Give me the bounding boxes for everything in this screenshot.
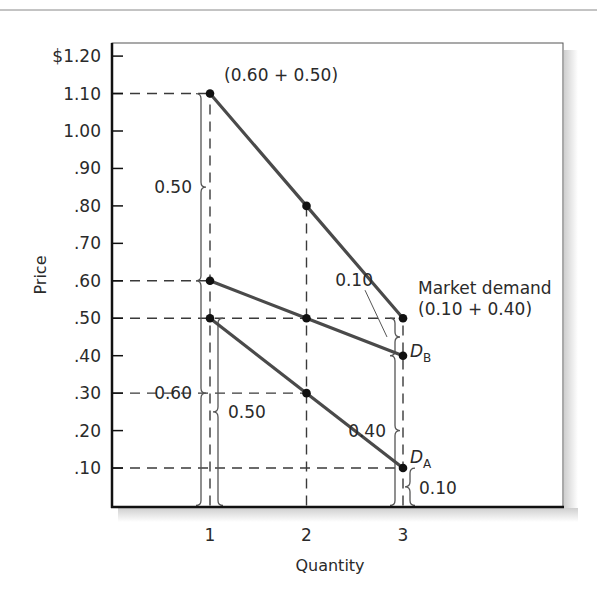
data-point bbox=[302, 202, 311, 211]
y-axis-title: Price bbox=[31, 255, 50, 294]
brace-label: 0.10 bbox=[419, 478, 457, 498]
data-point bbox=[399, 314, 408, 323]
y-tick-label: .70 bbox=[74, 233, 101, 253]
x-tick-label: 1 bbox=[205, 525, 216, 545]
y-tick-label: .10 bbox=[74, 458, 101, 478]
brace-label: 0.50 bbox=[154, 177, 192, 197]
market-demand-label: Market demand bbox=[418, 278, 552, 298]
y-tick-label: .90 bbox=[74, 158, 101, 178]
data-point bbox=[302, 389, 311, 398]
y-tick-label: .30 bbox=[74, 383, 101, 403]
x-tick-label: 3 bbox=[398, 525, 409, 545]
x-axis-ticks: 123 bbox=[205, 525, 409, 545]
y-tick-label: 1.00 bbox=[63, 121, 101, 141]
data-point bbox=[302, 314, 311, 323]
y-tick-label: .80 bbox=[74, 196, 101, 216]
x-axis-title: Quantity bbox=[295, 556, 364, 575]
data-point bbox=[399, 351, 408, 360]
brace-label: 0.40 bbox=[348, 421, 386, 441]
brace-label: 0.10 bbox=[335, 270, 373, 290]
brace-label: 0.60 bbox=[154, 383, 192, 403]
brace-label: 0.50 bbox=[228, 402, 266, 422]
frame-shadow-bottom bbox=[118, 508, 578, 522]
data-point bbox=[399, 464, 408, 473]
market-sum-label-q1: (0.60 + 0.50) bbox=[224, 65, 338, 85]
frame-shadow-right bbox=[564, 50, 578, 522]
y-tick-label: .40 bbox=[74, 346, 101, 366]
market-sum-label-q3: (0.10 + 0.40) bbox=[418, 299, 532, 319]
data-point bbox=[206, 277, 215, 286]
y-tick-label: $1.20 bbox=[52, 46, 101, 66]
y-tick-label: .50 bbox=[74, 308, 101, 328]
demand-chart: .10.20.30.40.50.60.70.80.901.001.10$1.20… bbox=[0, 0, 597, 599]
y-tick-label: 1.10 bbox=[63, 84, 101, 104]
y-tick-label: .20 bbox=[74, 421, 101, 441]
x-tick-label: 2 bbox=[301, 525, 312, 545]
data-point bbox=[206, 314, 215, 323]
data-point bbox=[206, 89, 215, 98]
y-tick-label: .60 bbox=[74, 271, 101, 291]
